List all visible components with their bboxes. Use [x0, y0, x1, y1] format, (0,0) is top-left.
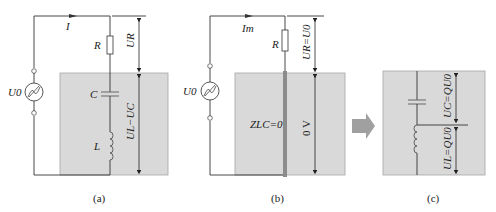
current-arrow-icon: [245, 14, 253, 18]
transition-arrow-icon: [352, 113, 375, 139]
source-label: U0: [8, 86, 22, 98]
caption-c: (c): [427, 192, 440, 205]
resonance-circuit-diagram: I U0 R C L UR UL−UC (a) Im U0: [0, 0, 496, 212]
voltage-bottom-label: 0 V: [300, 120, 312, 136]
panel-b: Im U0 R ZLC=0 UR=U0 0 V (b): [183, 14, 345, 205]
voltage-top-label: UC=QU0: [441, 73, 453, 118]
current-arrow-icon: [69, 14, 77, 18]
capacitor-label: C: [90, 88, 98, 100]
voltage-bottom-label: UL=QU0: [441, 127, 453, 170]
ac-source-icon: [201, 82, 219, 100]
caption-b: (b): [271, 192, 284, 205]
short-circuit-bar: [283, 71, 287, 177]
resistor-icon: [282, 30, 288, 51]
lc-shaded-region: [383, 71, 485, 175]
inductor-label: L: [93, 140, 100, 152]
current-label: Im: [241, 22, 254, 34]
panel-c: UC=QU0 UL=QU0 (c): [383, 71, 485, 205]
voltage-bottom-label: UL−UC: [124, 103, 136, 140]
caption-a: (a): [93, 192, 106, 205]
ac-source-icon: [25, 83, 43, 101]
voltage-top-label: UR: [124, 33, 136, 48]
panel-a: I U0 R C L UR UL−UC (a): [8, 14, 168, 205]
resistor-label: R: [93, 39, 101, 51]
current-label: I: [65, 20, 71, 32]
resistor-label: R: [271, 38, 279, 50]
lc-shaded-region: [60, 73, 168, 175]
resistor-icon: [107, 36, 113, 54]
impedance-label: ZLC=0: [250, 118, 283, 130]
source-label: U0: [183, 85, 197, 97]
voltage-top-label: UR=U0: [300, 24, 312, 60]
